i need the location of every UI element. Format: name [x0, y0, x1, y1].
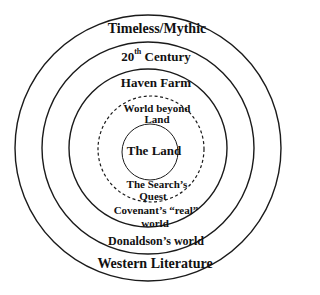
century-number: 20 — [121, 49, 134, 64]
label-covenant-line2: world — [141, 218, 169, 229]
century-superscript: th — [134, 47, 141, 56]
label-timeless-mythic: Timeless/Mythic — [108, 22, 207, 36]
label-20th-century: 20th Century — [121, 50, 191, 63]
label-world-beyond-line2: Land — [144, 114, 169, 125]
label-the-land: The Land — [127, 144, 182, 157]
century-word: Century — [145, 49, 191, 64]
label-donaldsons-world: Donaldson’s world — [108, 235, 204, 247]
label-haven-farm: Haven Farm — [121, 76, 191, 89]
label-search-line2: Quest — [139, 191, 167, 202]
label-covenant-line1: Covenant’s “real” — [114, 205, 199, 216]
label-search-line1: The Search’s — [127, 179, 188, 190]
label-western-literature: Western Literature — [97, 257, 212, 271]
